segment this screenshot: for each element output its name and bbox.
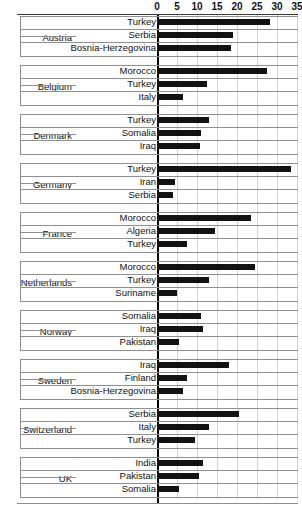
row-rule	[20, 261, 298, 262]
origin-label: Morocco	[120, 261, 156, 273]
origin-label: Iraq	[140, 359, 156, 371]
bar	[157, 326, 203, 332]
row-rule	[20, 127, 298, 128]
bar	[157, 32, 233, 38]
origin-label: Serbia	[129, 189, 156, 201]
origin-label: Turkey	[127, 274, 156, 286]
row-rule	[20, 56, 298, 57]
plot-area: AustriaTurkeySerbiaBosnia-HerzegovinaBel…	[0, 15, 302, 507]
row-rule	[20, 470, 298, 471]
row-rule	[20, 457, 298, 458]
row-rule	[20, 176, 298, 177]
origin-label: India	[135, 457, 156, 469]
horizontal-bar-chart: 05101520253035 AustriaTurkeySerbiaBosnia…	[0, 0, 302, 516]
origin-label: Morocco	[120, 65, 156, 77]
bar	[157, 473, 199, 479]
x-tick-label: 5	[174, 0, 180, 13]
bar-row: Turkey	[0, 16, 302, 29]
bar-row: Turkey	[0, 434, 302, 447]
bar-row: Turkey	[0, 238, 302, 251]
country-group: BelgiumMoroccoTurkeyItaly	[0, 65, 302, 114]
bar-row: Suriname	[0, 287, 302, 300]
x-tick-label: 25	[251, 0, 262, 13]
origin-label: Morocco	[120, 212, 156, 224]
country-group: AustriaTurkeySerbiaBosnia-Herzegovina	[0, 16, 302, 65]
bar-row: Somalia	[0, 127, 302, 140]
country-group: UKIndiaPakistanSomalia	[0, 457, 302, 506]
origin-label: Turkey	[127, 238, 156, 250]
row-rule	[20, 212, 298, 213]
bar	[157, 339, 179, 345]
axis-bottom-rule	[17, 503, 298, 504]
bar-row: Bosnia-Herzegovina	[0, 42, 302, 55]
bar	[157, 313, 201, 319]
row-rule	[20, 350, 298, 351]
bar-row: Turkey	[0, 163, 302, 176]
row-rule	[20, 105, 298, 106]
bar-row: Serbia	[0, 408, 302, 421]
bar	[157, 241, 187, 247]
row-rule	[20, 483, 298, 484]
row-rule	[20, 189, 298, 190]
bar-row: Turkey	[0, 274, 302, 287]
origin-label: Somalia	[122, 483, 156, 495]
bar-row: Pakistan	[0, 336, 302, 349]
bar	[157, 192, 173, 198]
bar-row: Italy	[0, 421, 302, 434]
bar	[157, 19, 270, 25]
bar-row: Finland	[0, 372, 302, 385]
bar	[157, 264, 255, 270]
bar	[157, 362, 229, 368]
row-rule	[20, 323, 298, 324]
bar	[157, 486, 179, 492]
bar-row: Morocco	[0, 261, 302, 274]
bar-row: Turkey	[0, 78, 302, 91]
bar-row: Iraq	[0, 359, 302, 372]
bar	[157, 460, 203, 466]
bar-row: Iran	[0, 176, 302, 189]
origin-label: Serbia	[129, 29, 156, 41]
country-group: SwitzerlandSerbiaItalyTurkey	[0, 408, 302, 457]
row-rule	[20, 287, 298, 288]
row-rule	[20, 42, 298, 43]
origin-label: Turkey	[127, 163, 156, 175]
bar	[157, 228, 215, 234]
bar	[157, 277, 209, 283]
country-group: FranceMoroccoAlgeriaTurkey	[0, 212, 302, 261]
bar	[157, 130, 201, 136]
row-rule	[20, 203, 298, 204]
bar	[157, 388, 183, 394]
row-rule	[20, 252, 298, 253]
x-axis: 05101520253035	[0, 0, 302, 15]
row-rule	[20, 29, 298, 30]
bar-row: Morocco	[0, 65, 302, 78]
x-tick-label: 35	[291, 0, 302, 13]
x-tick-label: 10	[191, 0, 202, 13]
bar	[157, 143, 200, 149]
x-tick-label: 30	[271, 0, 282, 13]
x-tick-label: 20	[231, 0, 242, 13]
row-rule	[20, 336, 298, 337]
origin-label: Iran	[140, 176, 156, 188]
origin-label: Iraq	[140, 323, 156, 335]
bar	[157, 179, 175, 185]
bar-row: Pakistan	[0, 470, 302, 483]
row-rule	[20, 448, 298, 449]
row-rule	[20, 91, 298, 92]
country-group: DenmarkTurkeySomaliaIraq	[0, 114, 302, 163]
bar-row: Morocco	[0, 212, 302, 225]
origin-label: Italy	[139, 91, 156, 103]
row-rule	[20, 497, 298, 498]
origin-label: Bosnia-Herzegovina	[70, 42, 156, 54]
bar	[157, 68, 267, 74]
row-rule	[20, 154, 298, 155]
row-rule	[20, 408, 298, 409]
row-rule	[20, 434, 298, 435]
x-tick-label: 15	[211, 0, 222, 13]
bar-row: Iraq	[0, 323, 302, 336]
row-rule	[20, 16, 298, 17]
row-rule	[20, 385, 298, 386]
bar	[157, 290, 177, 296]
bar-row: Algeria	[0, 225, 302, 238]
origin-label: Pakistan	[120, 470, 156, 482]
